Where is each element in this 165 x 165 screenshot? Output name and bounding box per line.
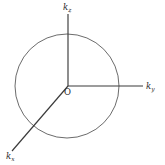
k-y-subscript: y — [151, 85, 154, 92]
k-x-axis-label: kx — [6, 152, 15, 161]
diagram-canvas — [0, 0, 165, 165]
origin-label: O — [64, 88, 71, 97]
k-z-subscript: z — [68, 6, 71, 13]
k-space-diagram: kz ky kx O — [0, 0, 165, 165]
k-x-subscript: x — [11, 155, 14, 162]
k-z-axis-label: kz — [63, 3, 71, 12]
k-x-axis-line — [12, 86, 68, 151]
k-y-axis-label: ky — [146, 82, 155, 91]
